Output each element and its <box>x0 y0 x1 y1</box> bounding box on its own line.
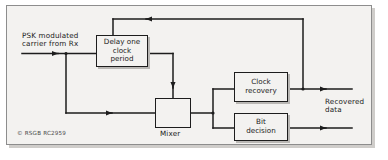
bit-decision-block[interactable]: Bit decision <box>234 113 288 141</box>
mixer-symbol[interactable] <box>155 98 191 128</box>
input-label: PSK modulated carrier from Rx <box>22 32 79 49</box>
output-label: Recovered data <box>325 98 364 115</box>
junction-input <box>64 52 67 55</box>
bit-decision-block-label: Bit decision <box>246 118 276 135</box>
clock-recovery-block[interactable]: Clock recovery <box>234 72 288 102</box>
block-diagram-figure: Delay one clock period Clock recovery Bi… <box>0 0 388 160</box>
clock-recovery-block-label: Clock recovery <box>245 78 276 95</box>
mixer-label: Mixer <box>160 130 180 138</box>
junction-mixer-bus <box>211 111 214 114</box>
copyright-credit: © RSGB RC2959 <box>17 130 66 136</box>
delay-block-label: Delay one clock period <box>104 38 140 64</box>
junction-feedback-tap <box>301 87 304 90</box>
delay-block[interactable]: Delay one clock period <box>96 35 148 67</box>
signal-wires <box>0 0 388 160</box>
